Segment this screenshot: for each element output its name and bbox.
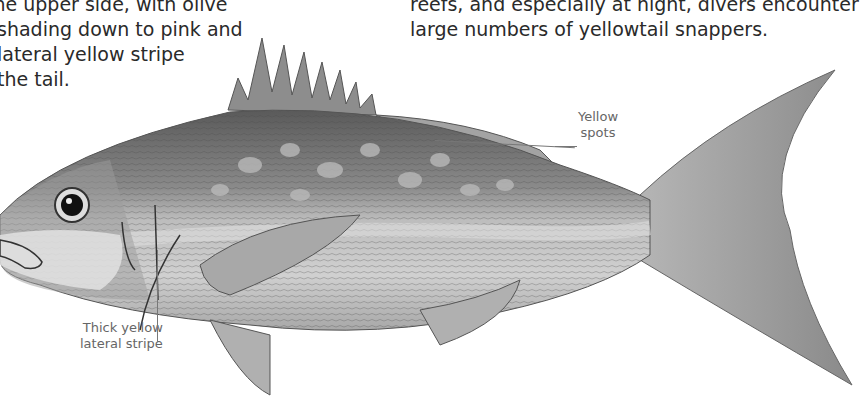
label-lateral-stripe: Thick yellow lateral stripe bbox=[80, 320, 163, 352]
eye bbox=[55, 188, 89, 222]
leader-line-spots-h bbox=[555, 146, 577, 147]
label-yellow-spots: Yellow spots bbox=[578, 109, 618, 141]
pelvic-fin bbox=[210, 320, 270, 395]
label-text: Thick yellow bbox=[80, 320, 163, 336]
tail-fin bbox=[640, 70, 852, 385]
label-text: spots bbox=[578, 125, 618, 141]
label-text: Yellow bbox=[578, 109, 618, 125]
leader-line-stripe bbox=[157, 250, 158, 342]
label-text: lateral stripe bbox=[80, 336, 163, 352]
